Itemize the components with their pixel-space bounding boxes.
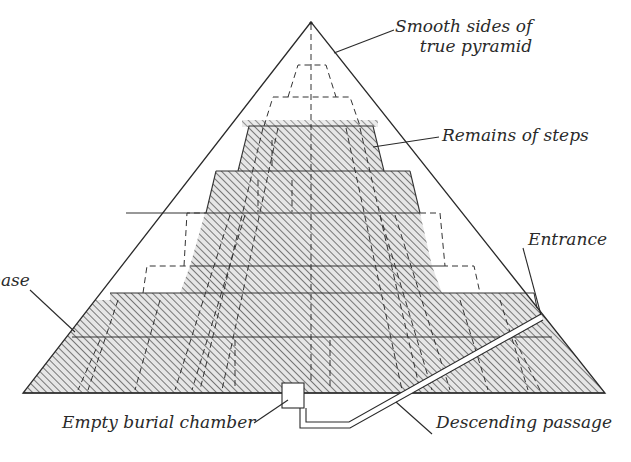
leader-base [30,290,75,332]
apex-point [309,21,312,24]
label-smooth-sides-line2: true pyramid [395,37,532,57]
label-smooth-sides-line1: Smooth sides of [395,17,532,37]
label-base: base [0,271,30,291]
leader-burial-chamber [254,400,288,423]
label-descending-passage: Descending passage [436,413,612,433]
label-smooth-sides: Smooth sides of true pyramid [395,17,532,56]
burial-chamber [282,383,304,408]
label-entrance: Entrance [528,230,607,250]
leader-smooth-sides [334,30,394,53]
label-remains-of-steps: Remains of steps [442,126,589,146]
leader-remains-of-steps [373,137,439,147]
label-empty-burial-chamber: Empty burial chamber [62,413,255,433]
leader-descending-passage [396,402,432,434]
pyramid-diagram: Smooth sides of true pyramid Remains of … [0,0,631,462]
